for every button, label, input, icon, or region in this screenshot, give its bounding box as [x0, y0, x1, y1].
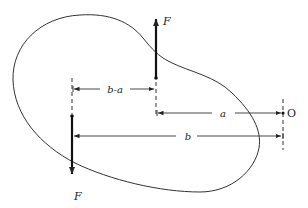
point-o-label: O: [287, 107, 296, 120]
dimension-b-label: b: [185, 131, 191, 142]
rigid-body-outline: [13, 15, 260, 192]
diagram-canvas: F F b-a a b O: [0, 0, 308, 208]
dimension-b-minus-a-label: b-a: [107, 84, 123, 95]
point-o-marker: [281, 111, 284, 114]
force-down: [70, 114, 74, 174]
dimension-a-label: a: [220, 108, 226, 119]
force-down-origin-dot: [70, 114, 74, 118]
force-down-label: F: [73, 190, 82, 203]
force-up-label: F: [162, 15, 171, 28]
force-up-origin-dot: [154, 76, 158, 80]
dimension-b: [74, 133, 283, 139]
dimension-a: [157, 110, 281, 116]
force-up: [154, 19, 158, 80]
